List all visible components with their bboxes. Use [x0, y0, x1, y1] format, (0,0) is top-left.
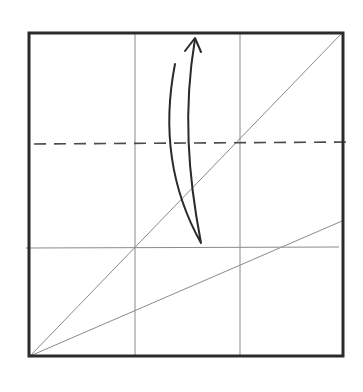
origami-diagram: [0, 0, 363, 392]
